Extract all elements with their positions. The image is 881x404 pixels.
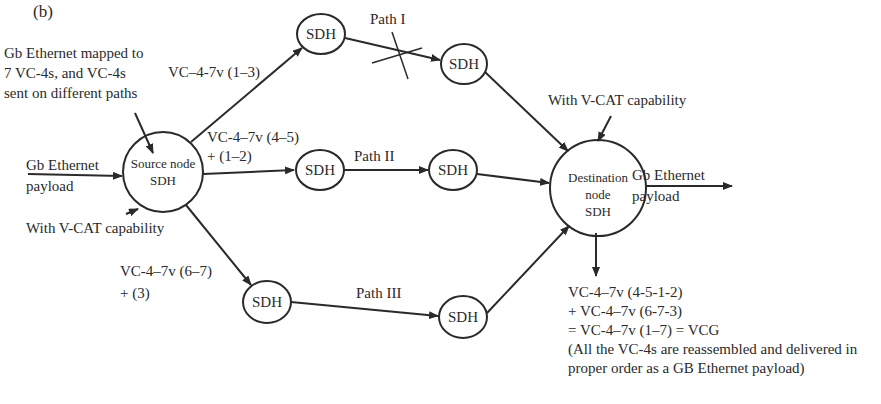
sdh-label-path2-b: SDH (429, 161, 477, 179)
source-capability-label: With V-CAT capability (26, 219, 164, 237)
input-payload-line-2: payload (26, 177, 73, 195)
dest-node-label-3: SDH (550, 203, 646, 220)
mapping-note-line-2: 7 VC-4s, and VC-4s (4, 64, 126, 82)
source-capability-arrow (126, 209, 138, 214)
sdh-label-path3-a: SDH (243, 293, 291, 311)
path3-link-3 (487, 226, 569, 313)
sdh-label-path1-a: SDH (297, 25, 345, 43)
result-line-4: (All the VC-4s are reassembled and deliv… (568, 340, 857, 358)
path2-vc-label-2: + (1–2) (207, 147, 252, 165)
path2-link-1 (203, 170, 294, 174)
sdh-label-path3-b: SDH (439, 308, 487, 326)
panel-label: (b) (33, 3, 53, 21)
path3-vc-label-2: + (3) (120, 284, 150, 302)
input-arrow (28, 174, 122, 176)
result-line-3: = VC-4–7v (1–7) = VCG (568, 321, 719, 339)
path3-name: Path III (356, 284, 401, 302)
source-node-label-2: SDH (123, 172, 203, 189)
dest-capability-label: With V-CAT capability (548, 91, 686, 109)
input-payload-line-1: Gb Ethernet (26, 156, 99, 174)
mapping-note-line-1: Gb Ethernet mapped to (4, 44, 144, 62)
path2-name: Path II (354, 147, 394, 165)
sdh-label-path1-b: SDH (441, 55, 487, 73)
result-line-1: VC-4–7v (4-5-1-2) (568, 283, 683, 301)
sdh-label-path2-a: SDH (296, 161, 344, 179)
result-line-5: proper order as a GB Ethernet payload) (568, 359, 805, 377)
result-line-2: + VC-4–7v (6-7-3) (568, 302, 682, 320)
path1-vc-label: VC–4-7v (1–3) (168, 63, 260, 81)
path2-link-3 (477, 174, 549, 183)
path3-link-2 (291, 302, 438, 316)
path3-vc-label-1: VC-4–7v (6–7) (120, 262, 212, 280)
path1-name: Path I (370, 10, 405, 28)
mapping-note-line-3: sent on different paths (4, 84, 137, 102)
output-payload-line-2: payload (632, 187, 679, 205)
output-payload-line-1: Gb Ethernet (632, 166, 705, 184)
dest-capability-arrow (598, 116, 611, 141)
source-node-label-1: Source node (123, 155, 203, 172)
path1-link-3 (485, 72, 568, 151)
path2-vc-label-1: VC-4–7v (4–5) (207, 128, 299, 146)
